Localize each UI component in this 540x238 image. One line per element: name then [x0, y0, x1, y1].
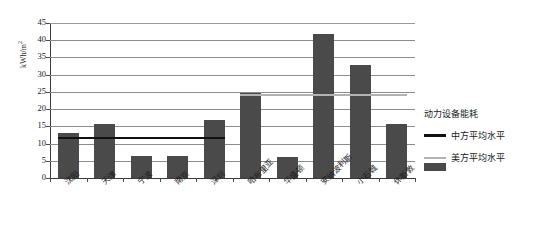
bar-series: [50, 23, 415, 178]
y-tick-mark: [46, 40, 50, 41]
usa-average-line: [240, 94, 407, 96]
y-tick-label: 10: [22, 139, 46, 148]
y-tick-label: 45: [22, 18, 46, 27]
y-tick-label: 20: [22, 104, 46, 113]
y-tick-mark: [46, 23, 50, 24]
legend-label: 中方平均水平: [451, 129, 505, 142]
plot-area: [50, 23, 415, 178]
y-tick-mark: [46, 178, 50, 179]
chart-legend: 动力设备能耗中方平均水平美方平均水平: [424, 105, 540, 171]
y-tick-label: 25: [22, 87, 46, 96]
y-tick-label: 40: [22, 35, 46, 44]
legend-label: 美方平均水平: [451, 151, 505, 164]
y-tick-mark: [46, 126, 50, 127]
y-axis-ticks: 454035302520151050: [21, 0, 46, 238]
bar: [313, 34, 334, 178]
y-tick-label: 0: [22, 173, 46, 182]
legend-label: 动力设备能耗: [424, 107, 478, 120]
legend-bar-swatch-icon: [424, 163, 446, 171]
bar-chart: kWh/m2 454035302520151050 沈阳天津宁波南京深圳哈布里亚…: [0, 0, 540, 238]
legend-line-swatch-icon: [424, 157, 446, 159]
legend-line-swatch-icon: [424, 134, 446, 137]
y-tick-label: 5: [22, 156, 46, 165]
legend-item[interactable]: 中方平均水平: [424, 127, 540, 144]
y-tick-label: 30: [22, 70, 46, 79]
china-average-line: [58, 137, 225, 139]
y-tick-mark: [46, 161, 50, 162]
y-tick-mark: [46, 57, 50, 58]
y-tick-mark: [46, 109, 50, 110]
chart-root: kWh/m2 454035302520151050 沈阳天津宁波南京深圳哈布里亚…: [0, 0, 540, 238]
legend-item[interactable]: 动力设备能耗: [424, 105, 540, 122]
bar: [350, 65, 371, 178]
bar: [240, 93, 261, 178]
y-tick-mark: [46, 75, 50, 76]
y-tick-label: 15: [22, 121, 46, 130]
y-tick-label: 35: [22, 52, 46, 61]
y-tick-mark: [46, 92, 50, 93]
x-axis-labels: 沈阳天津宁波南京深圳哈布里亚华盛顿安纳波利斯小石城休斯敦: [50, 181, 416, 238]
y-tick-mark: [46, 144, 50, 145]
